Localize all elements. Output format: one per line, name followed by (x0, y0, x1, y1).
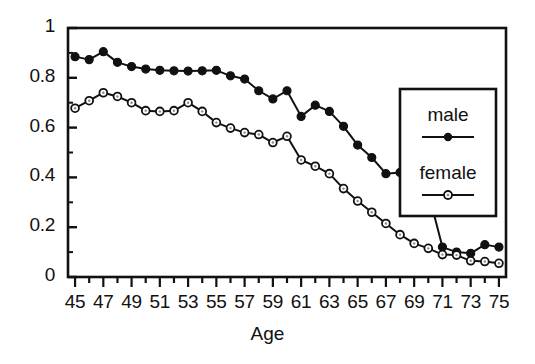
x-tick-label: 63 (314, 291, 344, 313)
y-tick-label: 0.2 (0, 214, 55, 236)
x-tick-label: 53 (173, 291, 203, 313)
x-tick-label: 67 (371, 291, 401, 313)
x-tick-label: 45 (60, 291, 90, 313)
x-tick-label: 49 (117, 291, 147, 313)
y-tick-label: 1 (0, 15, 55, 37)
y-tick-label: 0 (0, 264, 55, 286)
x-tick-label: 73 (456, 291, 486, 313)
x-axis-title: Age (0, 323, 535, 345)
x-tick-label: 47 (88, 291, 118, 313)
y-tick-label: 0.4 (0, 164, 55, 186)
chart-figure: malefemale 10.80.60.40.20 45474951535557… (0, 0, 535, 364)
y-tick-label: 0.8 (0, 65, 55, 87)
x-tick-label: 55 (201, 291, 231, 313)
x-tick-label: 71 (427, 291, 457, 313)
chart-legend: malefemale (400, 89, 496, 216)
x-tick-label: 61 (286, 291, 316, 313)
x-tick-label: 59 (258, 291, 288, 313)
x-tick-label: 57 (230, 291, 260, 313)
legend-label-male: male (427, 104, 468, 125)
x-tick-label: 65 (343, 291, 373, 313)
legend-label-female: female (419, 162, 476, 183)
x-tick-label: 69 (399, 291, 429, 313)
x-tick-label: 75 (484, 291, 514, 313)
y-tick-label: 0.6 (0, 115, 55, 137)
x-tick-label: 51 (145, 291, 175, 313)
